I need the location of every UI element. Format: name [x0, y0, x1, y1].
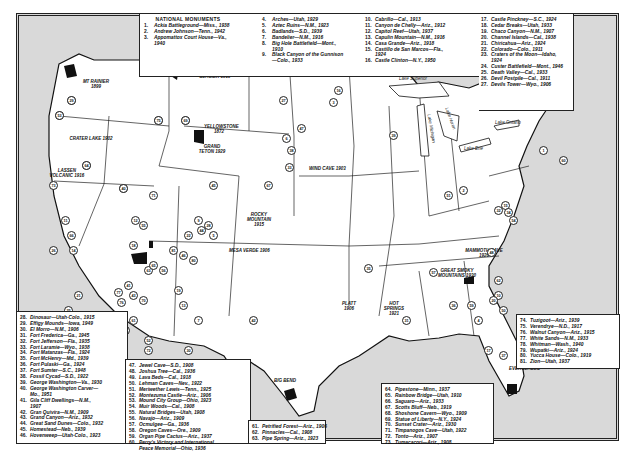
label-grand-teton: GRAND TETON 1929 [197, 144, 227, 154]
legend-item-number: 46. [20, 433, 30, 439]
legend-item-text: Rainbow Bridge—Utah, 1910 [395, 393, 462, 398]
monument-marker: 28 [204, 221, 213, 230]
legend-item-text: George Washington—Va., 1930 [30, 380, 102, 385]
legend-item-number: 3. [144, 35, 154, 41]
legend-item-number: 41. [20, 398, 30, 404]
legend-item-text: 1907 [30, 404, 41, 409]
legend-item-text: Arches—Utah, 1929 [272, 17, 318, 22]
legend-item-text: Castillo de San Marcos—Fla., [375, 47, 443, 52]
monument-marker: 62 [494, 276, 503, 285]
monument-marker: 77 [114, 288, 123, 297]
monument-marker: 16 [334, 86, 343, 95]
monument-marker: 12 [131, 216, 140, 225]
legend-item-text: Zion—Utah, 1937 [530, 359, 570, 364]
legend-item-text: Chaco Canyon—N.M., 1907 [491, 29, 554, 34]
legend-item-text: Lava Beds—Cal., 1918 [139, 375, 191, 380]
legend-item-text: Jewel Cave—S.D., 1908 [139, 363, 193, 368]
monument-marker: 21 [74, 291, 83, 300]
monument-marker: 43 [129, 291, 138, 300]
monument-marker: 38 [287, 146, 296, 155]
legend-bottom-middle: 47.Jewel Cave—S.D., 190848.Joshua Tree—C… [125, 359, 251, 444]
legend-top-right: 17.Castle Pinckney—S.C., 192418.Cedar Br… [479, 13, 574, 111]
monument-marker: 4 [474, 316, 483, 325]
monument-marker: 48 [487, 248, 496, 257]
monument-marker: 34 [504, 208, 513, 217]
legend-item-text: Yucca House—Colo., 1919 [530, 353, 591, 358]
legend-item-text: Whitman—Wash., 1940 [530, 342, 583, 347]
legend-item-text: Grand Canyon—Ariz., 1932 [30, 415, 93, 420]
monument-marker: 55 [139, 221, 148, 230]
monument-marker: 26 [49, 246, 58, 255]
monument-marker: 76 [117, 298, 126, 307]
legend-item-text: Hovenweep—Utah-Colo., 1923 [30, 433, 100, 438]
legend-item: 27.Devils Tower—Wyo., 1906 [481, 82, 563, 88]
legend-item-text: Tumacacori—Ariz., 1908 [395, 440, 451, 445]
legend-item-text: Timpanogos Cave—Utah, 1922 [395, 428, 466, 433]
monument-marker: 2 [459, 186, 468, 195]
monument-marker: 59 [467, 301, 476, 310]
legend-item-text: —Colo., 1933 [272, 58, 303, 63]
legend-item-text: Castle Pinckney—S.C., 1924 [491, 17, 557, 22]
legend-item-text: Joshua Tree—Cal., 1936 [139, 369, 195, 374]
legend-item-text: Saguaro—Ariz., 1933 [395, 399, 444, 404]
legend-item-text: Badlands—S.D., 1939 [272, 29, 322, 34]
legend-item-text: Tuzigoot—Ariz., 1939 [530, 318, 579, 323]
legend-item-text: Natural Bridges—Utah, 1908 [139, 410, 205, 415]
monument-marker: 7 [194, 316, 203, 325]
legend-item-text: Effigy Mounds—Iowa, 1949 [30, 321, 93, 326]
legend-item-text: Organ Pipe Cactus—Ariz., 1937 [139, 434, 212, 439]
legend-item-text: Gila Cliff Dwellings—N.M., [30, 398, 91, 403]
monument-marker: 40 [119, 184, 128, 193]
monument-marker: 51 [444, 191, 453, 200]
legend-item-text: Craters of the Moon—Idaho, [491, 52, 556, 57]
legend-item-text: Fort Frederica—Ga., 1945 [30, 333, 89, 338]
monument-marker: 18 [129, 241, 138, 250]
legend-item-text: Andrew Johnson—Tenn., 1942 [154, 29, 225, 34]
monument-marker: 45 [209, 181, 218, 190]
legend-item: —Colo., 1933 [262, 58, 343, 64]
monument-marker: 42 [249, 316, 258, 325]
monument-marker: 65 [149, 261, 158, 270]
legend-item-text: Great Sand Dunes—Colo., 1932 [30, 421, 103, 426]
legend-item-text: Canyon de Chelly—Ariz., 1912 [375, 23, 445, 28]
legend-item-text: Oregon Caves—Ore., 1909 [139, 428, 200, 433]
legend-item-number: 63. [252, 436, 262, 442]
legend-item-text: Montezuma Castle—Ariz., 1906 [139, 393, 211, 398]
legend-item: 63.Pipe Spring—Ariz., 1923 [252, 436, 327, 442]
legend-item-text: Fort Jefferson—Fla., 1935 [30, 339, 90, 344]
label-lassen: LASSEN VOLCANIC 1916 [47, 168, 87, 178]
monument-marker: 9 [194, 216, 203, 225]
monument-marker: 31 [402, 316, 411, 325]
label-mt-rainier: MT RAINIER 1899 [79, 79, 113, 89]
monument-marker: 3 [329, 98, 338, 107]
monument-marker: 64 [82, 161, 91, 170]
monument-marker: 46 [179, 251, 188, 260]
label-yellowstone: YELLOWSTONE 1872 [204, 124, 234, 134]
legend-item-text: Casa Grande—Ariz., 1918 [375, 41, 434, 46]
legend-top: NATIONAL MONUMENTS 1.Ackia Battleground—… [139, 13, 482, 77]
label-lake-ontario: Lake Ontario [495, 120, 521, 125]
label-big-bend: BIG BEND [274, 378, 296, 383]
legend-item-text: Lehman Caves—Nev., 1922 [139, 381, 202, 386]
monument-marker: 37 [499, 351, 508, 360]
park-zion [149, 241, 153, 248]
monument-marker: 22 [184, 231, 193, 240]
legend-item-text: George Washington Carver— [30, 386, 98, 391]
monument-marker: 27 [279, 96, 288, 105]
legend-item: 73.Tumacacori—Ariz., 1908 [385, 440, 467, 446]
legend-item-text: Mo., 1951 [30, 392, 52, 397]
legend-bottom-left: 28.Dinosaur—Utah-Colo., 191529.Effigy Mo… [16, 311, 128, 444]
legend-item-text: Shoshone Cavern—Wyo., 1909 [395, 411, 467, 416]
legend-item-text: Fossil Cycad—S.D., 1922 [30, 374, 88, 379]
legend-item-text: Pipestone—Minn., 1937 [395, 387, 450, 392]
legend-item-text: Verendrye—N.D., 1917 [530, 324, 582, 329]
legend-item-text: El Morro—N.M., 1906 [30, 327, 79, 332]
legend-item-text: Bandelier—N.M., 1916 [272, 35, 323, 40]
label-wind-cave: WIND CAVE 1903 [309, 166, 346, 171]
legend-item-text: Fort Pulaski—Ga., 1924 [30, 362, 84, 367]
legend-item-text: Gran Quivira—N.M., 1909 [30, 410, 88, 415]
monument-marker: 17 [484, 346, 493, 355]
legend-item-text: Fort Laramie—Wyo., 1938 [30, 345, 90, 350]
monument-marker: 30 [184, 346, 193, 355]
legend-item: Peace Memorial—Ohio, 1936 [129, 446, 214, 452]
